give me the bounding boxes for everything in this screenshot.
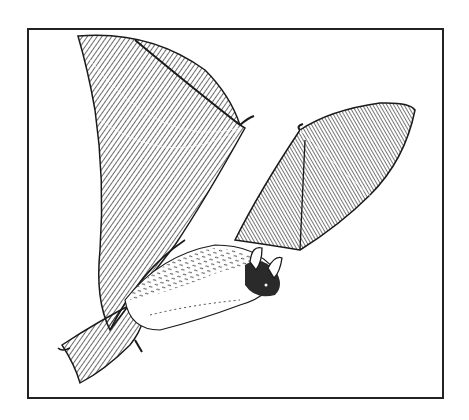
bat-illustration (0, 0, 469, 420)
right-wing (235, 103, 415, 250)
